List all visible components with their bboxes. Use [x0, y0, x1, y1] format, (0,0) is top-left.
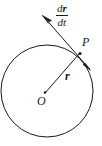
- center-o-label: O: [37, 95, 46, 107]
- numerator-vector-r: r: [63, 2, 67, 14]
- derivative-label: dr dt: [56, 3, 68, 28]
- derivative-denominator: dt: [56, 15, 68, 28]
- vector-r-label: r: [65, 70, 70, 82]
- point-p-label: P: [82, 36, 89, 48]
- radius-vector-line: [46, 54, 80, 93]
- derivative-numerator: dr: [56, 3, 68, 15]
- denominator-t: t: [63, 16, 66, 28]
- diagram-canvas: [0, 0, 102, 146]
- vector-derivative-diagram: dr dt P r O: [0, 0, 102, 146]
- point-p-dot: [78, 52, 81, 55]
- tangent-arrowhead-lower: [83, 64, 91, 71]
